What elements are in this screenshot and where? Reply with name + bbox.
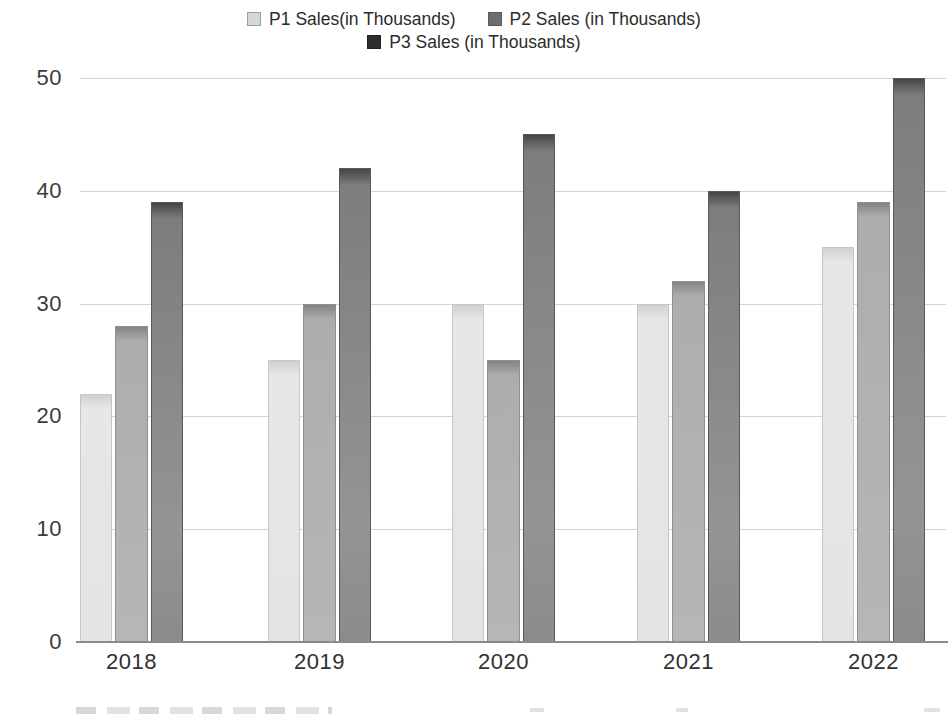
y-axis-tick-40: 40 (2, 179, 62, 203)
legend-label-p2: P2 Sales (in Thousands) (510, 8, 701, 30)
bar-group-2019 (268, 78, 371, 642)
y-axis-tick-50: 50 (2, 66, 62, 90)
bar-p1-2018 (80, 394, 112, 642)
bar-p3-2022 (893, 78, 925, 642)
bar-p3-2021 (708, 191, 740, 642)
bar-p3-2018 (151, 202, 183, 642)
x-axis-line (76, 641, 948, 643)
bar-p3-2020 (523, 134, 555, 642)
scan-artifact-cropped-caption (76, 707, 332, 714)
bar-p2-2018 (115, 326, 147, 642)
bar-p1-2019 (268, 360, 300, 642)
legend-row-1: P1 Sales(in Thousands) P2 Sales (in Thou… (247, 8, 701, 30)
bar-group-2022 (822, 78, 925, 642)
bar-group-2020 (452, 78, 555, 642)
x-axis-tick-2018: 2018 (80, 649, 183, 675)
bar-p1-2022 (822, 247, 854, 642)
y-axis-tick-10: 10 (2, 517, 62, 541)
legend-label-p3: P3 Sales (in Thousands) (389, 31, 580, 53)
bar-p2-2022 (857, 202, 889, 642)
bar-p2-2021 (672, 281, 704, 642)
legend-item-p3: P3 Sales (in Thousands) (367, 31, 580, 53)
x-axis-tick-2022: 2022 (822, 649, 925, 675)
scan-artifact (530, 708, 544, 712)
legend-swatch-p1-icon (247, 12, 261, 26)
y-axis-tick-20: 20 (2, 404, 62, 428)
bar-group-2018 (80, 78, 183, 642)
bar-p1-2021 (637, 304, 669, 642)
scan-artifact (924, 708, 940, 712)
y-axis-tick-0: 0 (2, 630, 62, 654)
legend-item-p1: P1 Sales(in Thousands) (247, 8, 455, 30)
legend-swatch-p2-icon (488, 12, 502, 26)
bar-p2-2020 (487, 360, 519, 642)
legend-label-p1: P1 Sales(in Thousands) (269, 8, 455, 30)
x-axis-tick-2019: 2019 (268, 649, 371, 675)
x-axis-tick-2021: 2021 (637, 649, 740, 675)
bar-p1-2020 (452, 304, 484, 642)
bar-group-2021 (637, 78, 740, 642)
plot-area (80, 78, 946, 642)
legend-row-2: P3 Sales (in Thousands) (367, 31, 580, 53)
legend-swatch-p3-icon (367, 35, 381, 49)
chart-legend: P1 Sales(in Thousands) P2 Sales (in Thou… (0, 8, 948, 53)
y-axis-tick-30: 30 (2, 292, 62, 316)
bar-chart-figure: P1 Sales(in Thousands) P2 Sales (in Thou… (0, 0, 948, 714)
legend-item-p2: P2 Sales (in Thousands) (488, 8, 701, 30)
x-axis-tick-2020: 2020 (452, 649, 555, 675)
bar-p3-2019 (339, 168, 371, 642)
scan-artifact (676, 708, 688, 712)
bar-p2-2019 (303, 304, 335, 642)
